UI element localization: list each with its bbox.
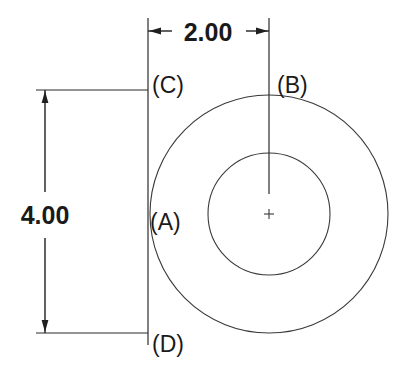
vertical-dimension-label: 4.00 xyxy=(21,201,70,229)
horizontal-dim-arrow-left-icon xyxy=(149,28,161,35)
vertical-dim-arrow-bottom-icon xyxy=(42,320,49,332)
horizontal-dimension-2-00: 2.00 xyxy=(148,18,269,46)
point-label-a: (A) xyxy=(150,209,181,235)
center-mark-icon xyxy=(264,209,274,219)
point-label-d: (D) xyxy=(152,331,184,357)
drawing-svg: 2.00 4.00 (C) (B) (A) (D) xyxy=(0,0,413,374)
horizontal-dim-arrow-right-icon xyxy=(256,28,268,35)
vertical-dim-arrow-top-icon xyxy=(42,91,49,103)
point-label-b: (B) xyxy=(277,72,308,98)
horizontal-dimension-label: 2.00 xyxy=(184,18,233,46)
point-label-c: (C) xyxy=(152,72,184,98)
technical-drawing-canvas: 2.00 4.00 (C) (B) (A) (D) xyxy=(0,0,413,374)
vertical-dimension-4-00: 4.00 xyxy=(21,90,148,333)
